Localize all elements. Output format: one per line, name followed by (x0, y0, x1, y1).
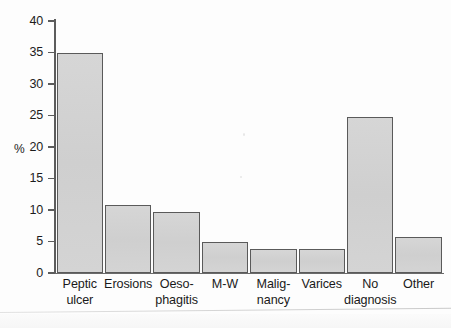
x-category-label-line1: Oeso- (160, 277, 194, 291)
bar-face (154, 213, 199, 272)
y-tick-label: 30 (3, 78, 43, 91)
y-tick-mark (48, 52, 55, 53)
bar (347, 117, 394, 273)
y-tick-label: 10 (3, 204, 43, 217)
y-tick-label: 40 (3, 15, 43, 28)
bar (57, 53, 104, 274)
y-tick-mark (48, 83, 55, 84)
bar-face (251, 250, 296, 272)
y-tick-mark (48, 272, 55, 273)
x-category-label: Other (383, 277, 451, 293)
y-tick-mark (48, 20, 55, 21)
bar-face (396, 238, 441, 272)
bar-face (58, 54, 103, 273)
scan-shade (0, 314, 451, 328)
bar (153, 212, 200, 273)
x-category-label-line1: Peptic (63, 277, 97, 291)
bar (105, 205, 152, 273)
x-category-label-line2: ulcer (45, 293, 116, 309)
y-tick-mark (48, 146, 55, 147)
y-tick-label: 25 (3, 109, 43, 122)
y-tick-mark (48, 241, 55, 242)
bar (202, 242, 249, 273)
y-tick-mark (48, 178, 55, 179)
x-category-label-line2: phagitis (141, 293, 212, 309)
y-tick-mark (48, 115, 55, 116)
x-category-label-line2: nancy (238, 293, 309, 309)
bar-face (203, 243, 248, 272)
x-category-label-line1: Other (403, 277, 434, 291)
scan-speck (243, 133, 245, 136)
x-category-label-line2: diagnosis (335, 293, 406, 309)
bar-face (300, 250, 345, 272)
y-tick-label: 0 (3, 267, 43, 280)
y-tick-label: 35 (3, 46, 43, 59)
scan-artifact-line (0, 308, 451, 313)
y-tick-mark (48, 209, 55, 210)
bar (395, 237, 442, 273)
x-category-label-line1: M-W (212, 277, 238, 291)
y-tick-label: 15 (3, 172, 43, 185)
bar (299, 249, 346, 273)
bar (250, 249, 297, 273)
bar-face (348, 118, 393, 272)
y-tick-label: 5 (3, 235, 43, 248)
bar-chart-figure: % 0510152025303540 PepticulcerErosionsOe… (0, 0, 451, 328)
bar-face (106, 206, 151, 272)
x-category-label-line1: Malig- (257, 277, 291, 291)
scan-speck (240, 176, 242, 178)
x-category-label-line1: No (362, 277, 378, 291)
y-tick-label: 20 (3, 141, 43, 154)
